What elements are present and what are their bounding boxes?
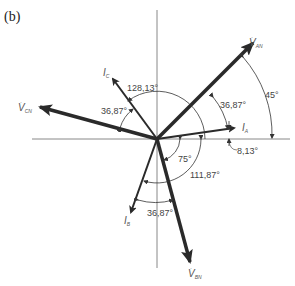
angle-label-3687-left: 36,87° bbox=[101, 106, 128, 116]
dot-vcn: · bbox=[20, 99, 22, 105]
angle-label-813: 8,13° bbox=[237, 146, 259, 156]
angle-label-75: 75° bbox=[178, 154, 192, 164]
label-ic: IC bbox=[103, 67, 110, 79]
dot-van: · bbox=[251, 34, 253, 40]
angle-label-12813: 128,13° bbox=[127, 83, 159, 93]
arc-3687-bottom bbox=[138, 200, 173, 203]
dot-vbn: · bbox=[190, 265, 192, 271]
angle-label-3687-bottom: 36,87° bbox=[147, 208, 174, 218]
vector-vcn bbox=[40, 107, 157, 139]
angle-label-11187: 111,87° bbox=[190, 170, 220, 180]
phasor-diagram: 45° 36,87° 8,13° 128,13° 36,87° 75° 111,… bbox=[0, 0, 295, 286]
angle-label-45: 45° bbox=[265, 90, 279, 100]
leader-813 bbox=[229, 141, 237, 150]
angle-label-3687-top: 36,87° bbox=[220, 100, 247, 110]
vector-van bbox=[157, 43, 253, 139]
vector-ib bbox=[131, 139, 157, 212]
label-ia: IA bbox=[242, 122, 249, 134]
label-ib: IB bbox=[124, 215, 131, 227]
